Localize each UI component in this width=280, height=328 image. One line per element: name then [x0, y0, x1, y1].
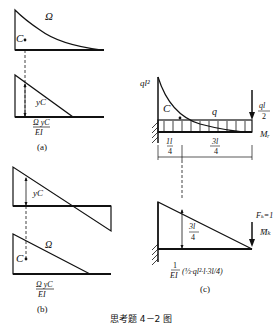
c-result-body: (⅓·ql²·l·3l/4)	[182, 267, 223, 276]
c-dim-left-num: 1l	[166, 137, 173, 146]
c-dim-left-den: 4	[168, 147, 172, 156]
b-panel-label: (b)	[37, 304, 48, 314]
a-panel-label: (a)	[37, 142, 47, 152]
a-yc-label: yC	[35, 97, 47, 107]
panel-b	[13, 167, 111, 289]
a-result-den: EI	[34, 128, 43, 137]
b-result-den: EI	[37, 290, 46, 299]
c-dim-right-num: 3l	[211, 137, 219, 146]
c-dim-right-den: 4	[214, 147, 218, 156]
c-panel-label: (c)	[200, 284, 210, 294]
b-result-num: Ω yC	[36, 280, 53, 289]
c-fixed-moment: Mᵣ	[259, 129, 270, 139]
a-result-num: Ω yC	[33, 118, 50, 127]
c-result-prefix-num: 1	[173, 261, 177, 270]
c-centroid-label: C	[163, 102, 171, 114]
c-load-label: q	[212, 106, 217, 117]
figure-caption: 思考题 4－2 图	[110, 314, 172, 324]
c-ordinate-num: 3l	[188, 222, 196, 231]
b-yc-label: yC	[32, 188, 44, 198]
c-moment-top: ql²	[140, 78, 150, 88]
b-centroid-label: C	[16, 252, 24, 264]
diagram-canvas: Ω C yC Ω yC EI (a) yC Ω C Ω yC EI (b) ql…	[0, 0, 280, 328]
c-result-prefix-den: EI	[169, 271, 178, 280]
c-force-num: ql	[259, 101, 266, 110]
b-area-label: Ω	[45, 239, 52, 250]
a-centroid-label: C	[16, 32, 24, 44]
curve-area-a	[15, 10, 102, 50]
c-ordinate-den: 4	[191, 233, 195, 242]
c-unit-moment: M̄ₖ	[259, 227, 271, 237]
c-force-den: 2	[262, 112, 266, 121]
panel-a	[15, 10, 104, 127]
a-area-label: Ω	[45, 10, 53, 22]
c-unit-force: Fₖ=1	[255, 211, 273, 220]
centroid-dot-a	[24, 39, 27, 42]
